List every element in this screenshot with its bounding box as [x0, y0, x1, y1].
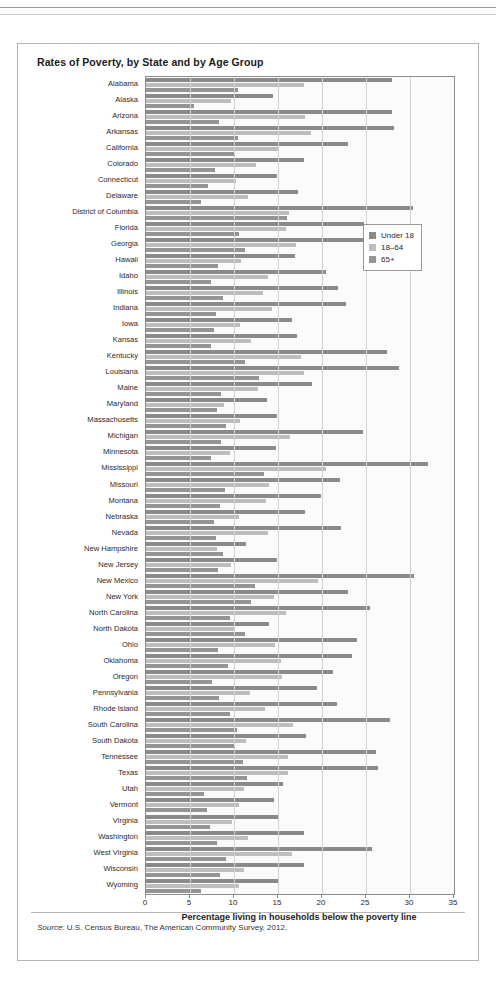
- x-tick-label: 30: [405, 898, 414, 907]
- y-axis-label: New Mexico: [97, 576, 138, 585]
- bar-18-64: [146, 611, 286, 615]
- bar-65: [146, 664, 228, 668]
- bar-65: [146, 776, 247, 780]
- bar-under-18: [146, 110, 392, 114]
- y-axis-label: Michigan: [108, 431, 138, 440]
- bar-under-18: [146, 590, 348, 594]
- bar-under-18: [146, 382, 312, 386]
- bar-18-64: [146, 643, 275, 647]
- bar-group: [146, 686, 454, 702]
- bar-group: [146, 334, 454, 350]
- bar-65: [146, 857, 226, 861]
- bar-under-18: [146, 430, 363, 434]
- gridline-20: [322, 77, 323, 894]
- bar-group: [146, 366, 454, 382]
- figure-separator: [31, 912, 465, 913]
- bar-under-18: [146, 686, 317, 690]
- bar-65: [146, 408, 217, 412]
- bar-18-64: [146, 307, 272, 311]
- bar-65: [146, 216, 287, 220]
- bar-65: [146, 312, 216, 316]
- bar-65: [146, 825, 210, 829]
- bar-65: [146, 536, 216, 540]
- bar-18-64: [146, 723, 293, 727]
- bar-18-64: [146, 868, 244, 872]
- bar-18-64: [146, 739, 246, 743]
- bar-18-64: [146, 483, 269, 487]
- y-axis-label: Connecticut: [98, 175, 138, 184]
- y-axis-label: Arizona: [112, 111, 138, 120]
- bar-18-64: [146, 803, 239, 807]
- bar-group: [146, 174, 454, 190]
- y-axis-label: Louisiana: [105, 367, 138, 376]
- bar-under-18: [146, 734, 306, 738]
- bar-18-64: [146, 836, 248, 840]
- bar-18-64: [146, 499, 266, 503]
- bar-65: [146, 504, 220, 508]
- gridline-25: [366, 77, 367, 894]
- bar-under-18: [146, 254, 295, 258]
- bar-group: [146, 879, 454, 895]
- y-axis-label: Vermont: [110, 800, 138, 809]
- bar-18-64: [146, 579, 318, 583]
- bar-group: [146, 318, 454, 334]
- bar-65: [146, 264, 218, 268]
- y-axis-label: Missouri: [110, 480, 138, 489]
- legend-item: 18–64: [369, 242, 414, 253]
- bar-65: [146, 136, 238, 140]
- page-rule-top: [0, 7, 496, 8]
- y-axis-label: Nevada: [112, 528, 138, 537]
- bar-65: [146, 184, 208, 188]
- y-axis-label: Maryland: [107, 399, 138, 408]
- bar-65: [146, 280, 211, 284]
- bar-group: [146, 302, 454, 318]
- bar-18-64: [146, 275, 268, 279]
- bar-group: [146, 190, 454, 206]
- y-axis-label: District of Columbia: [72, 207, 138, 216]
- bar-65: [146, 568, 218, 572]
- chart-legend: Under 1818–6465+: [363, 224, 422, 271]
- bar-18-64: [146, 243, 296, 247]
- bar-under-18: [146, 574, 414, 578]
- y-axis-label: Pennsylvania: [93, 688, 138, 697]
- y-axis-label: Kansas: [113, 335, 138, 344]
- bar-18-64: [146, 435, 290, 439]
- bar-group: [146, 270, 454, 286]
- bar-under-18: [146, 414, 277, 418]
- bar-under-18: [146, 606, 370, 610]
- bar-18-64: [146, 339, 251, 343]
- bar-group: [146, 638, 454, 654]
- bar-18-64: [146, 227, 286, 231]
- bar-65: [146, 873, 220, 877]
- y-axis-label: Kentucky: [107, 351, 138, 360]
- bar-65: [146, 632, 245, 636]
- bar-65: [146, 552, 223, 556]
- y-axis-label: Colorado: [107, 159, 138, 168]
- bar-65: [146, 792, 204, 796]
- bar-group: [146, 847, 454, 863]
- y-axis-label: North Carolina: [89, 608, 138, 617]
- y-axis-label: Illinois: [117, 287, 138, 296]
- bar-under-18: [146, 94, 273, 98]
- y-axis-label: Oregon: [113, 672, 138, 681]
- bar-65: [146, 440, 221, 444]
- bar-18-64: [146, 99, 231, 103]
- legend-label: 65+: [381, 255, 395, 264]
- bar-65: [146, 328, 214, 332]
- bar-18-64: [146, 451, 230, 455]
- bar-group: [146, 574, 454, 590]
- bar-group: [146, 670, 454, 686]
- bar-rows: [146, 77, 454, 894]
- y-axis-label: Texas: [118, 768, 138, 777]
- y-axis-label: New Hampshire: [84, 544, 138, 553]
- bar-group: [146, 815, 454, 831]
- bar-group: [146, 446, 454, 462]
- bar-18-64: [146, 163, 256, 167]
- source-label: Source:: [37, 923, 65, 932]
- bar-65: [146, 232, 239, 236]
- bar-under-18: [146, 622, 269, 626]
- y-axis-label: Indiana: [113, 303, 138, 312]
- bar-65: [146, 696, 219, 700]
- bar-group: [146, 158, 454, 174]
- bar-65: [146, 120, 219, 124]
